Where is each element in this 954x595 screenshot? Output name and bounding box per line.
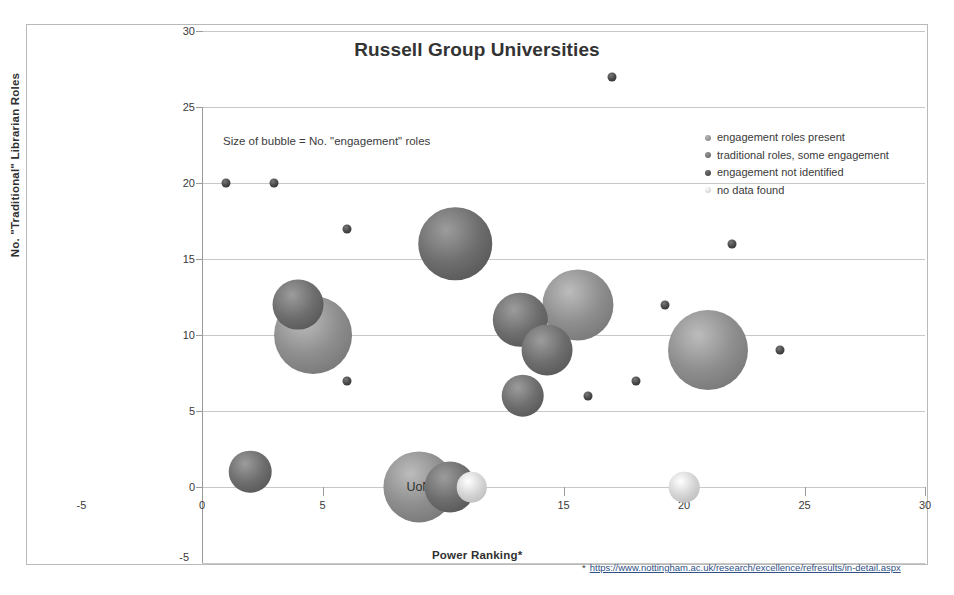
bubble-data-point[interactable] [342,376,351,385]
y-axis-tick-label: 30 [173,25,195,37]
y-axis-tick-label: 10 [173,329,195,341]
bubble-data-point[interactable] [521,325,572,376]
bubble-data-point[interactable] [583,391,592,400]
x-axis-tick-label: 15 [557,499,569,511]
legend: engagement roles presenttraditional role… [705,129,889,199]
chart-title: Russell Group Universities [27,39,927,61]
y-axis-tick-label: 5 [173,405,195,417]
x-axis-tick-label: 5 [319,499,325,511]
bubble-data-point[interactable] [631,376,640,385]
chart-frame: Russell Group Universities No. "Traditio… [26,24,928,565]
legend-dot-icon [705,152,711,158]
bubble-data-point[interactable] [229,451,272,494]
legend-label: traditional roles, some engagement [717,147,889,165]
bubble-data-point[interactable] [222,179,231,188]
y-axis-tick-label: 0 [173,481,195,493]
bubble-data-point[interactable] [776,346,785,355]
legend-label: engagement roles present [717,129,845,147]
legend-dot-icon [705,170,711,176]
y-axis-tick-label: -5 [167,551,189,563]
bubble-data-point[interactable] [607,72,616,81]
footnote-url[interactable]: https://www.nottingham.ac.uk/research/ex… [590,562,901,573]
y-axis-tick-label: 25 [173,101,195,113]
legend-dot-icon [705,187,711,193]
bubble-data-point[interactable] [273,279,324,330]
x-axis-tick-label: -5 [77,499,87,511]
y-axis-title: No. "Traditional" Librarian Roles [9,5,21,325]
x-axis-title: Power Ranking* [432,549,522,561]
legend-dot-icon [705,135,711,141]
legend-label: no data found [717,182,784,200]
bubble-data-point[interactable] [660,300,669,309]
x-axis-tick [323,487,324,496]
y-axis-tick [196,31,203,32]
footnote: *https://www.nottingham.ac.uk/research/e… [582,562,901,573]
footnote-marker: * [582,562,586,573]
x-axis-tick [925,487,926,496]
x-axis-tick [564,487,565,496]
bubble-data-point[interactable] [669,472,700,503]
bubble-data-point[interactable] [270,179,279,188]
bubble-data-point[interactable] [457,472,488,503]
bubble-data-point[interactable] [728,239,737,248]
legend-label: engagement not identified [717,164,844,182]
y-axis-tick-label: 15 [173,253,195,265]
y-axis-tick [196,487,203,488]
gridline [202,31,925,32]
y-axis-tick-label: 20 [173,177,195,189]
x-axis-tick-label: 0 [199,499,205,511]
bubble-data-point[interactable] [342,224,351,233]
legend-item[interactable]: no data found [705,182,889,200]
x-axis-tick [805,487,806,496]
x-axis-tick-label: 25 [798,499,810,511]
legend-item[interactable]: engagement not identified [705,164,889,182]
bubble-data-point[interactable] [501,375,544,418]
legend-item[interactable]: engagement roles present [705,129,889,147]
legend-item[interactable]: traditional roles, some engagement [705,147,889,165]
x-axis-tick-label: 30 [919,499,931,511]
bubble-data-point[interactable] [668,310,748,390]
